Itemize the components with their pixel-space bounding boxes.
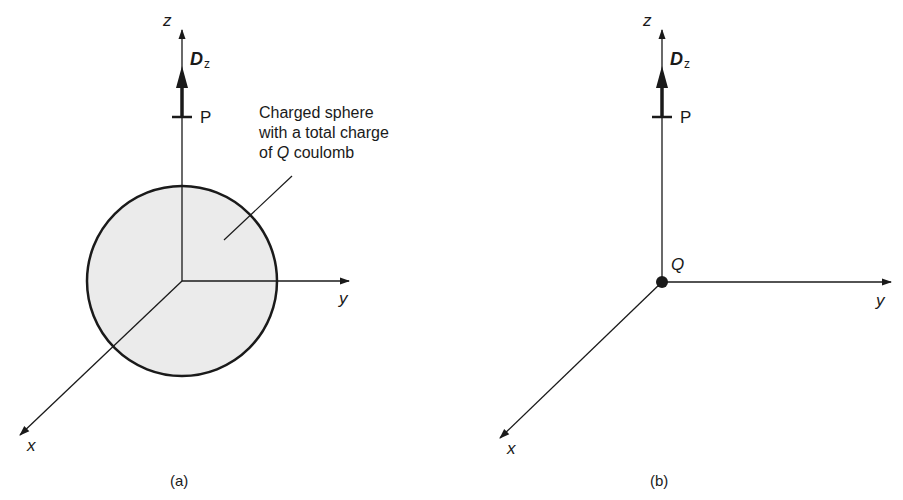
point-charge	[656, 276, 668, 288]
caption-b: (b)	[650, 473, 668, 488]
d-subscript-a: z	[204, 57, 210, 71]
panel-a	[20, 30, 349, 435]
d-vector-label-a: Dz	[190, 50, 209, 68]
point-p-label-a: P	[200, 109, 211, 126]
panel-b	[500, 30, 891, 438]
x-axis-b	[500, 282, 662, 438]
d-vector-arrowhead-b	[656, 66, 668, 88]
caption-a: (a)	[170, 473, 188, 488]
charge-label-q: Q	[671, 256, 684, 273]
annotation-line-2: with a total charge	[259, 123, 389, 143]
d-subscript-b: z	[684, 57, 690, 71]
sphere-annotation: Charged sphere with a total charge of Q …	[259, 103, 389, 163]
y-axis-label-b: y	[876, 292, 885, 309]
x-axis-label-a: x	[27, 437, 36, 454]
z-axis-label-a: z	[163, 12, 172, 29]
z-axis-label-b: z	[643, 12, 652, 29]
d-vector-label-b: Dz	[670, 50, 689, 68]
x-axis-label-b: x	[507, 440, 516, 457]
point-p-label-b: P	[680, 109, 691, 126]
annotation-line-3: of Q coulomb	[259, 143, 389, 163]
annotation-line-1: Charged sphere	[259, 103, 389, 123]
d-symbol-a: D	[190, 49, 203, 69]
y-axis-label-a: y	[339, 290, 348, 307]
diagram-canvas	[0, 0, 903, 500]
d-symbol-b: D	[670, 49, 683, 69]
d-vector-arrowhead-a	[176, 66, 188, 88]
